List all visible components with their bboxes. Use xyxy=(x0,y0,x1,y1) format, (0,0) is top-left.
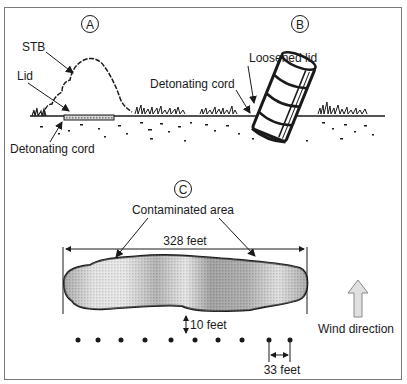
label-spacing: 33 feet xyxy=(264,363,301,377)
arrow-loosened-lid xyxy=(248,66,254,103)
stb-cloud xyxy=(44,58,132,116)
sampler-dot xyxy=(119,338,124,343)
panel-c: C Contaminated area 328 feet 10 feet 33 … xyxy=(63,181,394,378)
offset-dimension: 10 feet xyxy=(186,316,227,333)
panel-a-marker-label: A xyxy=(86,18,94,32)
label-offset: 10 feet xyxy=(190,318,227,332)
sampler-dot xyxy=(193,338,198,343)
plume-stipple xyxy=(64,255,307,311)
label-cord-a: Detonating cord xyxy=(10,142,95,156)
label-contaminated-area: Contaminated area xyxy=(132,203,234,217)
sampler-dot xyxy=(216,338,221,343)
label-width: 328 feet xyxy=(163,234,207,248)
panel-a-marker: A xyxy=(82,16,99,33)
arrow-stb xyxy=(46,52,73,73)
arrow-area-left xyxy=(116,218,148,257)
lid-a xyxy=(64,115,114,120)
sampler-dot xyxy=(96,338,101,343)
ground-a xyxy=(30,105,200,142)
panel-c-marker: C xyxy=(175,181,192,198)
sampler-dot xyxy=(76,338,81,343)
label-cord-b: Detonating cord xyxy=(150,77,235,91)
diagram-canvas: A STB Lid xyxy=(0,0,407,384)
sampler-dot xyxy=(169,338,174,343)
panel-c-marker-label: C xyxy=(179,183,188,197)
label-wind: Wind direction xyxy=(318,322,394,336)
panel-b: B Lo xyxy=(150,16,385,145)
sampler-row xyxy=(76,338,293,343)
panel-b-marker-label: B xyxy=(296,18,304,32)
panel-b-marker: B xyxy=(292,16,309,33)
label-lid-a: Lid xyxy=(17,69,33,83)
spacing-dimension: 33 feet xyxy=(264,340,301,377)
wind-direction-arrow: Wind direction xyxy=(318,280,394,336)
arrow-cord-b xyxy=(236,90,250,113)
sampler-dot xyxy=(143,338,148,343)
arrow-cord-a xyxy=(50,122,62,142)
sampler-dot xyxy=(240,338,245,343)
arrow-area-right xyxy=(219,218,255,256)
label-loosened-lid: Loosened lid xyxy=(249,51,317,65)
label-stb: STB xyxy=(22,40,45,54)
